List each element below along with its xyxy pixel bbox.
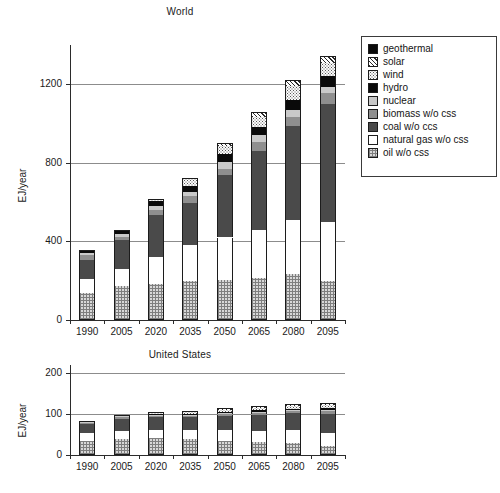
bar-segment-ltgray	[285, 410, 301, 411]
bar-2095	[320, 365, 336, 455]
legend-swatch-oil-icon	[368, 148, 378, 158]
bar-segment-medgray	[182, 196, 198, 203]
bar-segment-black	[79, 250, 95, 253]
x-axis-tick	[276, 455, 277, 459]
bar-segment-medgray	[285, 117, 301, 126]
bar-segment-black	[79, 421, 95, 422]
bar-segment-white	[148, 257, 164, 284]
bar-segment-black	[148, 201, 164, 206]
bar-segment-black	[320, 56, 336, 57]
bar-segment-ltgray	[217, 162, 233, 169]
bar-segment-wind	[251, 117, 267, 127]
bar-segment-oil	[114, 286, 130, 320]
bar-segment-ltgray	[320, 87, 336, 93]
bar-segment-white	[285, 220, 301, 274]
bar-segment-dkgray	[148, 417, 164, 431]
bar-segment-oil	[182, 439, 198, 455]
bar-segment-black	[320, 408, 336, 410]
x-axis-tick	[276, 320, 277, 324]
gridline	[70, 163, 345, 164]
bar-segment-oil	[320, 281, 336, 320]
bar-segment-dkgray	[182, 203, 198, 245]
bar-segment-dkgray	[251, 151, 267, 230]
bar-segment-medgray	[114, 237, 130, 241]
bar-segment-solar	[251, 406, 267, 408]
bar-segment-ltgray	[114, 416, 130, 417]
chart-title-united-states: United States	[0, 349, 360, 360]
bar-segment-medgray	[251, 142, 267, 151]
legend-swatch-dkgray-icon	[368, 122, 378, 132]
bar-segment-wind	[251, 408, 267, 410]
bar-2005	[114, 365, 130, 455]
y-axis-line	[70, 45, 71, 321]
bar-segment-solar	[251, 113, 267, 117]
legend-item-label: solar	[383, 57, 405, 67]
bar-segment-ltgray	[182, 415, 198, 416]
legend-item-label: geothermal	[383, 44, 433, 54]
bar-segment-white	[79, 279, 95, 293]
bar-segment-medgray	[251, 413, 267, 415]
x-axis-tick-label: 2095	[308, 326, 348, 337]
gridline	[70, 414, 345, 415]
legend-item: nuclear	[368, 94, 490, 107]
bar-segment-medgray	[217, 169, 233, 175]
bar-1990	[79, 365, 95, 455]
bar-segment-solar	[285, 81, 301, 86]
plot-area-united-states: 010020019902005202020352050206520802095	[70, 365, 345, 455]
bar-segment-oil	[251, 278, 267, 320]
legend-swatch-medgray-icon	[368, 109, 378, 119]
bar-segment-medgray	[320, 93, 336, 104]
bar-segment-dkgray	[285, 413, 301, 429]
x-axis-tick	[173, 455, 174, 459]
bar-2020	[148, 45, 164, 320]
bar-segment-oil	[285, 274, 301, 320]
bar-segment-black	[217, 412, 233, 413]
bar-segment-white	[251, 230, 267, 278]
bar-segment-solar	[217, 408, 233, 409]
bar-segment-dkgray	[251, 415, 267, 431]
bar-segment-solar	[320, 57, 336, 63]
bar-segment-wind	[182, 179, 198, 187]
x-axis-tick	[139, 320, 140, 324]
bar-segment-black	[320, 403, 336, 404]
x-axis-tick	[242, 320, 243, 324]
bar-segment-oil	[320, 446, 336, 455]
bar-segment-ltgray	[285, 110, 301, 117]
legend: geothermalsolarwindhydronuclearbiomass w…	[361, 36, 497, 177]
legend-item-label: nuclear	[383, 96, 416, 106]
bar-segment-medgray	[320, 411, 336, 413]
legend-item-label: biomass w/o css	[383, 109, 456, 119]
legend-item-label: hydro	[383, 83, 408, 93]
bar-segment-black	[285, 409, 301, 410]
bar-segment-white	[285, 430, 301, 443]
legend-swatch-white-icon	[368, 135, 378, 145]
bar-2065	[251, 45, 267, 320]
y-axis-tick-label: 0	[22, 314, 62, 325]
bar-2020	[148, 365, 164, 455]
bar-segment-ltgray	[251, 135, 267, 142]
legend-item: wind	[368, 68, 490, 81]
bar-segment-white	[217, 430, 233, 441]
y-axis-line	[70, 365, 71, 456]
legend-item: natural gas w/o css	[368, 133, 490, 146]
bar-segment-medgray	[148, 210, 164, 215]
bar-segment-medgray	[114, 417, 130, 419]
bar-segment-black	[217, 154, 233, 162]
bar-segment-solar	[148, 412, 164, 413]
bar-segment-white	[114, 269, 130, 286]
y-axis-tick-label: 200	[22, 367, 62, 378]
bar-segment-white	[148, 430, 164, 438]
bar-segment-black	[251, 112, 267, 113]
bar-segment-ltgray	[114, 234, 130, 237]
bar-segment-white	[114, 431, 130, 438]
bar-2050	[217, 45, 233, 320]
gridline	[70, 373, 345, 374]
bar-segment-ltgray	[251, 412, 267, 413]
bar-segment-ltgray	[79, 422, 95, 423]
bar-segment-oil	[217, 441, 233, 455]
bar-segment-wind	[320, 405, 336, 408]
bar-segment-solar	[182, 411, 198, 412]
x-axis-tick	[104, 320, 105, 324]
figure-root: World EJ/year 04008001200199020052020203…	[0, 0, 500, 493]
x-axis-tick	[208, 455, 209, 459]
